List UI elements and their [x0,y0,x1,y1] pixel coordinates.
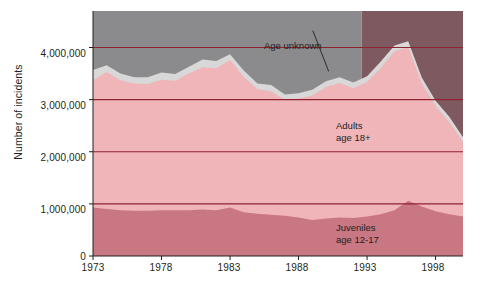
y-axis-tick-marks [89,47,93,256]
annotation-adults-line1: Adults [336,120,371,132]
stacked-area-plot [0,0,485,290]
annotation-age-unknown: Age unknown [264,40,322,52]
x-axis-tick-marks [93,256,436,260]
annotation-juveniles-line2: age 12-17 [336,234,379,246]
annotation-adults: Adults age 18+ [336,120,371,143]
annotation-adults-line2: age 18+ [336,132,371,144]
annotation-juveniles-line1: Juveniles [336,222,379,234]
annotation-juveniles: Juveniles age 12-17 [336,222,379,245]
chart-figure: Number of incidents 4,000,000 3,000,000 … [0,0,485,290]
